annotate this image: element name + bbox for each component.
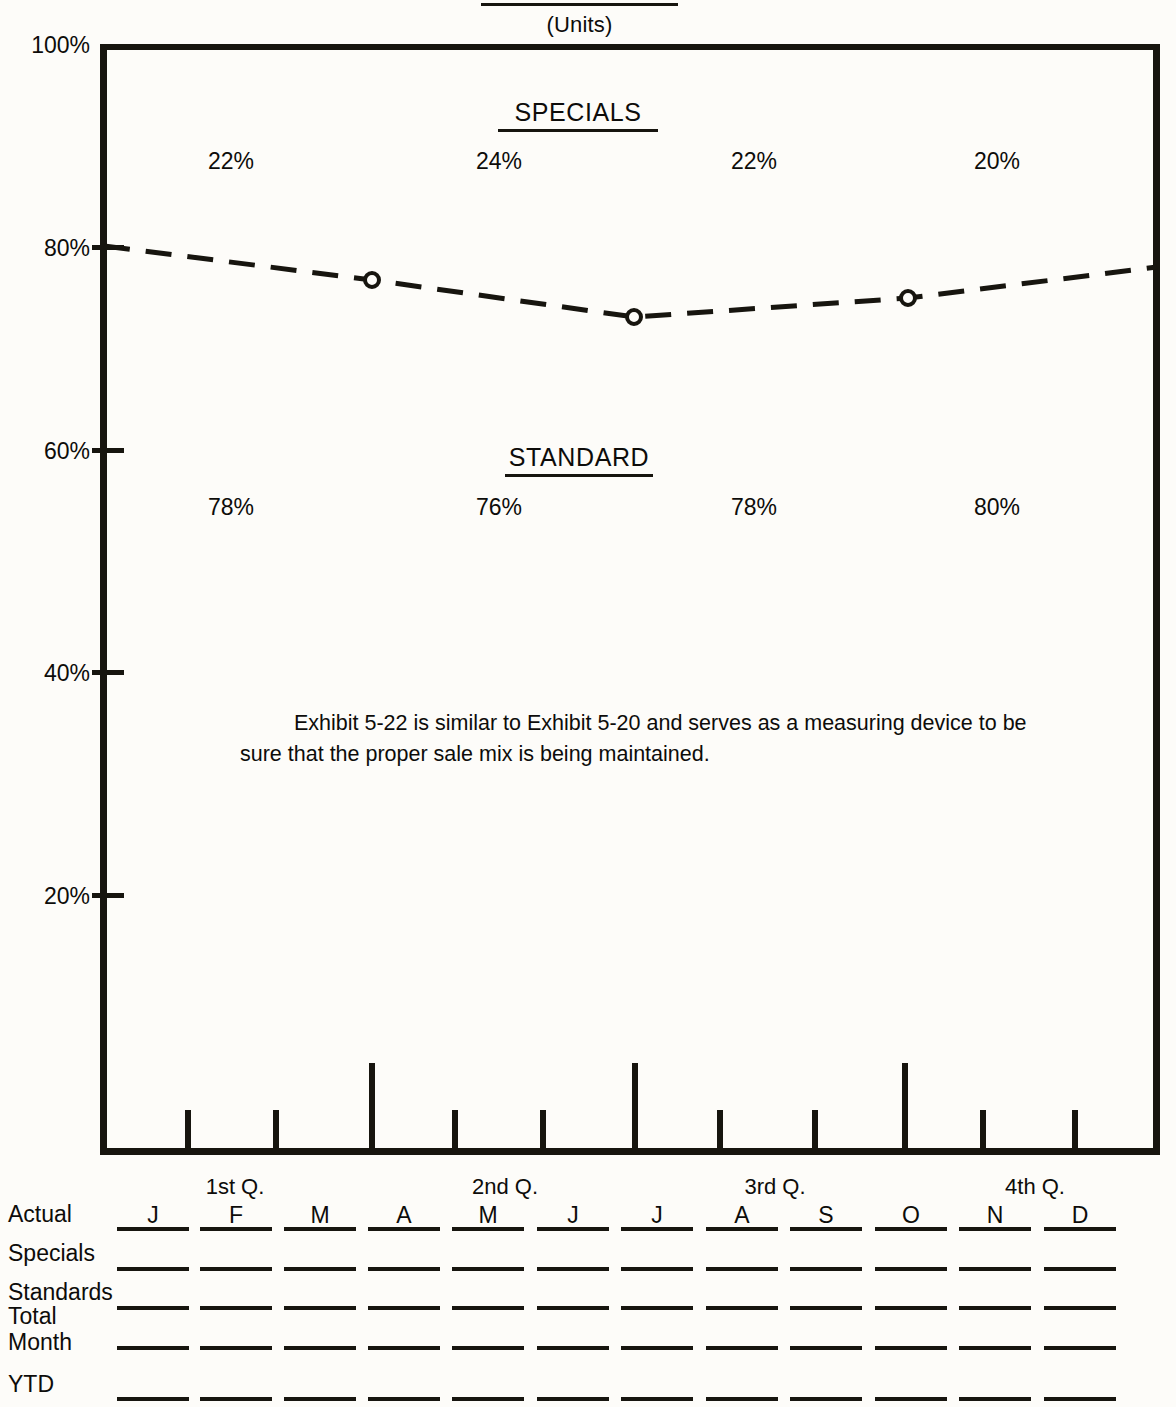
table-cell[interactable] <box>200 1243 272 1271</box>
table-cell[interactable]: J <box>117 1203 189 1231</box>
x-tick-q2-end <box>632 1063 638 1155</box>
table-cell[interactable] <box>117 1282 189 1310</box>
x-tick-oct <box>980 1110 986 1155</box>
table-cell[interactable] <box>790 1243 862 1271</box>
x-tick-apr <box>452 1110 458 1155</box>
table-cell-write-in-rule <box>537 1306 609 1310</box>
table-cell[interactable] <box>1044 1282 1116 1310</box>
table-cell-write-in-rule <box>875 1267 947 1271</box>
table-cell-write-in-rule <box>452 1397 524 1401</box>
table-cell[interactable] <box>706 1243 778 1271</box>
table-cell-write-in-rule <box>790 1306 862 1310</box>
table-cell[interactable] <box>452 1373 524 1401</box>
table-cell-value <box>200 1322 272 1346</box>
table-cell[interactable] <box>621 1373 693 1401</box>
table-cell[interactable] <box>537 1243 609 1271</box>
table-cell[interactable] <box>117 1243 189 1271</box>
table-cell[interactable] <box>368 1322 440 1350</box>
table-cell[interactable] <box>284 1243 356 1271</box>
quarter-label-3: 3rd Q. <box>705 1174 845 1200</box>
table-cell[interactable]: M <box>452 1203 524 1231</box>
table-cell-write-in-rule <box>284 1267 356 1271</box>
table-cell[interactable] <box>537 1322 609 1350</box>
table-cell[interactable] <box>875 1373 947 1401</box>
x-tick-feb <box>273 1110 279 1155</box>
table-cell-value <box>117 1243 189 1267</box>
table-cell[interactable] <box>284 1322 356 1350</box>
table-cell[interactable] <box>452 1243 524 1271</box>
table-cell-value <box>790 1322 862 1346</box>
table-cell[interactable] <box>537 1373 609 1401</box>
table-cell-value <box>790 1373 862 1397</box>
table-cell[interactable]: J <box>537 1203 609 1231</box>
table-cell[interactable] <box>875 1322 947 1350</box>
table-cell-value <box>790 1243 862 1267</box>
table-cell[interactable] <box>790 1322 862 1350</box>
table-cell-write-in-rule <box>200 1306 272 1310</box>
table-cell[interactable] <box>706 1373 778 1401</box>
table-cell-write-in-rule <box>117 1346 189 1350</box>
table-cell[interactable] <box>200 1322 272 1350</box>
chart-title-underline <box>481 3 678 6</box>
table-cell[interactable]: D <box>1044 1203 1116 1231</box>
table-cell[interactable] <box>117 1373 189 1401</box>
table-cell[interactable] <box>790 1282 862 1310</box>
table-cell[interactable]: S <box>790 1203 862 1231</box>
table-cell[interactable] <box>1044 1322 1116 1350</box>
table-cell-value <box>200 1282 272 1306</box>
table-cell[interactable] <box>452 1322 524 1350</box>
table-cell-value <box>706 1282 778 1306</box>
table-cell[interactable] <box>537 1282 609 1310</box>
y-tick-label-100: 100% <box>10 32 90 59</box>
table-cell[interactable] <box>706 1282 778 1310</box>
table-row-label: TotalMonth <box>8 1303 72 1355</box>
table-cell[interactable] <box>706 1322 778 1350</box>
table-cell[interactable] <box>959 1243 1031 1271</box>
table-cell-write-in-rule <box>875 1306 947 1310</box>
table-cell[interactable]: N <box>959 1203 1031 1231</box>
x-tick-jul <box>717 1110 723 1155</box>
table-cell[interactable] <box>959 1282 1031 1310</box>
table-cell[interactable] <box>959 1322 1031 1350</box>
table-cell-write-in-rule <box>537 1346 609 1350</box>
month-header-label: N <box>959 1203 1031 1227</box>
table-cell[interactable]: M <box>284 1203 356 1231</box>
table-cell-value <box>1044 1322 1116 1346</box>
table-cell[interactable] <box>959 1373 1031 1401</box>
table-cell-value <box>875 1322 947 1346</box>
table-cell-write-in-rule <box>117 1397 189 1401</box>
table-cell[interactable]: A <box>368 1203 440 1231</box>
table-cell[interactable] <box>621 1282 693 1310</box>
table-cell-write-in-rule <box>621 1397 693 1401</box>
table-cell[interactable] <box>284 1282 356 1310</box>
month-header-label: J <box>621 1203 693 1227</box>
table-cell[interactable] <box>368 1282 440 1310</box>
table-cell-write-in-rule <box>621 1267 693 1271</box>
table-cell[interactable] <box>368 1373 440 1401</box>
table-cell[interactable] <box>875 1282 947 1310</box>
table-cell[interactable]: A <box>706 1203 778 1231</box>
table-cell-write-in-rule <box>875 1346 947 1350</box>
table-cell[interactable] <box>1044 1243 1116 1271</box>
table-cell[interactable]: O <box>875 1203 947 1231</box>
table-cell-value <box>706 1243 778 1267</box>
table-cell-write-in-rule <box>452 1267 524 1271</box>
table-cell[interactable] <box>368 1243 440 1271</box>
table-cell[interactable] <box>790 1373 862 1401</box>
table-cell[interactable] <box>200 1373 272 1401</box>
table-cell[interactable] <box>621 1322 693 1350</box>
table-cell[interactable]: J <box>621 1203 693 1231</box>
table-cell[interactable] <box>1044 1373 1116 1401</box>
table-cell[interactable] <box>621 1243 693 1271</box>
x-tick-nov <box>1072 1110 1078 1155</box>
table-cell[interactable] <box>117 1322 189 1350</box>
table-cell-write-in-rule <box>959 1267 1031 1271</box>
table-cell[interactable]: F <box>200 1203 272 1231</box>
y-tick-label-60: 60% <box>20 438 90 465</box>
table-cell[interactable] <box>875 1243 947 1271</box>
table-cell[interactable] <box>200 1282 272 1310</box>
table-cell[interactable] <box>452 1282 524 1310</box>
table-cell-write-in-rule <box>368 1267 440 1271</box>
table-cell[interactable] <box>284 1373 356 1401</box>
table-cell-value <box>368 1373 440 1397</box>
